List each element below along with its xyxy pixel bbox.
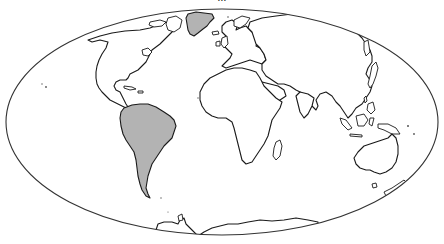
island-dot xyxy=(167,211,168,212)
region-ireland xyxy=(216,41,220,46)
region-scandinavia xyxy=(234,16,250,28)
island-dot xyxy=(41,83,42,84)
region-taiwan xyxy=(364,96,367,103)
island-dot xyxy=(197,97,198,98)
region-borneo xyxy=(356,114,368,126)
region-india xyxy=(296,92,314,118)
region-sulawesi xyxy=(369,118,374,126)
region-new-guinea xyxy=(378,124,400,134)
island-dot xyxy=(227,16,229,18)
region-baffin-island xyxy=(166,16,182,32)
region-tasmania xyxy=(372,183,377,188)
region-antarctic-peninsula xyxy=(178,214,183,221)
island-dot xyxy=(45,86,47,88)
region-north-america xyxy=(88,20,180,108)
region-madagascar xyxy=(273,140,282,160)
region-africa xyxy=(200,68,282,164)
region-java xyxy=(350,134,362,137)
region-new-zealand xyxy=(384,180,406,196)
region-sumatra xyxy=(340,118,352,130)
region-cuba xyxy=(124,86,136,90)
region-australia xyxy=(354,134,398,174)
region-antarctica xyxy=(150,218,318,244)
island-dot xyxy=(160,197,161,198)
region-philippines xyxy=(367,102,375,114)
island-dot xyxy=(407,125,409,127)
region-south-america xyxy=(120,104,176,198)
island-dot xyxy=(413,133,415,135)
world-map xyxy=(0,0,444,244)
region-hispaniola xyxy=(138,91,143,93)
region-iceland xyxy=(212,31,219,35)
region-greenland xyxy=(186,12,214,36)
